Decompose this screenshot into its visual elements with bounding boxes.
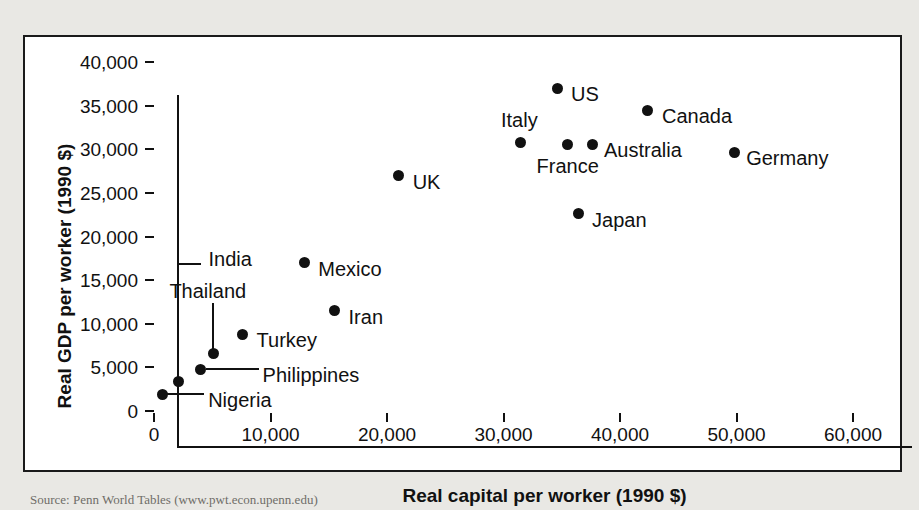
leader-line [206, 368, 259, 370]
data-point-label-us: US [571, 84, 599, 104]
data-point-label-nigeria: Nigeria [208, 390, 271, 410]
y-axis-tick [145, 105, 154, 107]
x-axis-tick-label: 30,000 [444, 425, 564, 444]
y-axis-tick-label: 20,000 [25, 228, 138, 247]
data-point-thailand[interactable] [208, 348, 219, 359]
data-point-mexico[interactable] [299, 257, 310, 268]
y-axis-tick [145, 236, 154, 238]
x-axis-tick-label: 40,000 [560, 425, 680, 444]
y-axis-tick-label: 40,000 [25, 53, 138, 72]
y-axis-tick-label: 30,000 [25, 140, 138, 159]
data-point-france[interactable] [562, 139, 573, 150]
data-point-philippines[interactable] [195, 364, 206, 375]
y-axis-tick [145, 279, 154, 281]
x-axis-tick-label: 60,000 [793, 425, 913, 444]
data-point-label-france: France [537, 156, 599, 176]
y-axis-tick [145, 410, 154, 412]
data-point-germany[interactable] [729, 147, 740, 158]
y-axis-tick [145, 366, 154, 368]
y-axis-tick-label: 35,000 [25, 97, 138, 116]
data-point-japan[interactable] [573, 208, 584, 219]
x-axis-tick [386, 413, 388, 422]
x-axis-tick [619, 413, 621, 422]
data-point-label-australia: Australia [604, 140, 682, 160]
data-point-label-turkey: Turkey [257, 330, 317, 350]
data-point-nigeria[interactable] [157, 389, 168, 400]
data-point-label-italy: Italy [501, 110, 538, 130]
data-point-us[interactable] [552, 83, 563, 94]
figure-caption: Source: Penn World Tables (www.pwt.econ.… [30, 492, 318, 508]
data-point-label-japan: Japan [592, 210, 647, 230]
data-point-label-canada: Canada [662, 106, 732, 126]
x-axis-tick [503, 413, 505, 422]
data-point-label-mexico: Mexico [318, 259, 381, 279]
y-axis-tick [145, 323, 154, 325]
x-axis-tick [270, 413, 272, 422]
data-point-label-india: India [208, 249, 251, 269]
data-point-label-uk: UK [413, 172, 441, 192]
data-point-label-germany: Germany [746, 148, 828, 168]
y-axis-tick-label: 15,000 [25, 271, 138, 290]
y-axis-tick-label: 25,000 [25, 184, 138, 203]
page-background: Real GDP per worker (1990 $) Real capita… [0, 0, 919, 510]
data-point-india[interactable] [173, 376, 184, 387]
x-axis-tick-label: 0 [94, 425, 214, 444]
leader-line [212, 303, 214, 349]
leader-line [167, 393, 204, 395]
data-point-label-philippines: Philippines [263, 365, 360, 385]
y-axis-tick-label: 0 [25, 402, 138, 421]
y-axis-tick [145, 148, 154, 150]
figure-frame: Real GDP per worker (1990 $) Real capita… [23, 35, 902, 472]
x-axis-line [177, 446, 912, 448]
data-point-label-thailand: Thailand [169, 281, 246, 301]
y-axis-tick-label: 10,000 [25, 315, 138, 334]
data-point-label-iran: Iran [349, 307, 383, 327]
y-axis-tick-label: 5,000 [25, 358, 138, 377]
leader-line [177, 263, 201, 265]
x-axis-tick [852, 413, 854, 422]
data-point-turkey[interactable] [237, 329, 248, 340]
x-axis-tick [153, 413, 155, 422]
data-point-australia[interactable] [587, 139, 598, 150]
y-axis-tick [145, 192, 154, 194]
x-axis-tick-label: 50,000 [677, 425, 797, 444]
y-axis-tick [145, 61, 154, 63]
x-axis-tick-label: 10,000 [211, 425, 331, 444]
x-axis-tick [736, 413, 738, 422]
x-axis-tick-label: 20,000 [327, 425, 447, 444]
